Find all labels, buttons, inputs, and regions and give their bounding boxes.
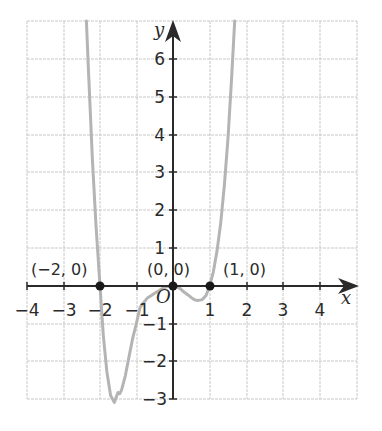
x-tick-label: 4 [315, 300, 326, 320]
point-label-0-0: (0, 0) [147, 260, 190, 279]
x-tick-label: 1 [205, 300, 216, 320]
y-axis-label: y [153, 19, 165, 40]
y-tick-label: −2 [142, 351, 167, 371]
x-tick-label: 2 [242, 300, 253, 320]
x-tick-label: 3 [278, 300, 289, 320]
y-tick-label: 4 [154, 125, 165, 145]
y-tick-label: 1 [154, 238, 165, 258]
origin-label: O [156, 286, 171, 307]
x-tick-label: −4 [14, 300, 39, 320]
point-0-0 [169, 282, 178, 291]
y-tick-label: −3 [142, 389, 167, 409]
grid [27, 21, 357, 399]
point-1-0 [206, 282, 215, 291]
point-label-1-0: (1, 0) [223, 260, 266, 279]
y-tick-label: 6 [154, 49, 165, 69]
point-label-neg2-0: (−2, 0) [31, 260, 87, 279]
point-neg2-0 [96, 282, 105, 291]
x-tick-label: −2 [87, 300, 112, 320]
y-tick-label: 5 [154, 87, 165, 107]
y-tick-label: 3 [154, 162, 165, 182]
x-axis-label: x [341, 287, 351, 308]
y-tick-label: −1 [142, 314, 167, 334]
polynomial-graph: −4 −3 −2 −1 1 2 3 4 6 5 4 3 2 1 −1 −2 −3… [0, 0, 382, 431]
y-tick-label: 2 [154, 200, 165, 220]
x-tick-label: −3 [51, 300, 76, 320]
